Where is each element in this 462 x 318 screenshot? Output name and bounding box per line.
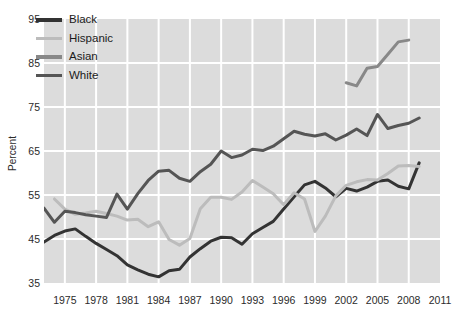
x-tick-label: 1975 — [53, 294, 76, 306]
legend-item-label: Black — [69, 14, 97, 26]
legend: BlackHispanicAsianWhite — [36, 12, 113, 86]
series-line-hispanic — [54, 166, 419, 246]
legend-item-label: Asian — [69, 51, 98, 63]
legend-item-black: Black — [36, 12, 113, 28]
x-tick-label: 1993 — [241, 294, 264, 306]
series-line-white — [44, 114, 419, 222]
legend-swatch-icon — [36, 74, 62, 78]
y-tick-label: 35 — [10, 277, 40, 289]
legend-item-hispanic: Hispanic — [36, 31, 113, 47]
x-tick-label: 2008 — [397, 294, 420, 306]
x-tick-label: 1996 — [272, 294, 295, 306]
x-tick-label: 1984 — [147, 294, 170, 306]
legend-item-label: White — [69, 70, 98, 82]
x-tick-label: 1987 — [178, 294, 201, 306]
x-tick-label: 1990 — [209, 294, 232, 306]
legend-swatch-icon — [36, 18, 62, 22]
y-tick-label: 65 — [10, 145, 40, 157]
y-tick-label: 45 — [10, 233, 40, 245]
series-line-asian — [346, 40, 409, 86]
y-tick-label: 75 — [10, 101, 40, 113]
x-tick-label: 2005 — [366, 294, 389, 306]
x-tick-label: 1978 — [84, 294, 107, 306]
x-tick-label: 2011 — [429, 294, 452, 306]
x-tick-label: 1999 — [303, 294, 326, 306]
legend-item-white: White — [36, 68, 113, 84]
y-tick-label: 55 — [10, 189, 40, 201]
legend-item-asian: Asian — [36, 49, 113, 65]
line-chart: Percent 95857565554535 19751978198119841… — [0, 0, 462, 318]
legend-swatch-icon — [36, 55, 62, 59]
x-tick-label: 1981 — [116, 294, 139, 306]
legend-swatch-icon — [36, 37, 62, 41]
legend-item-label: Hispanic — [69, 33, 113, 45]
x-tick-label: 2002 — [335, 294, 358, 306]
